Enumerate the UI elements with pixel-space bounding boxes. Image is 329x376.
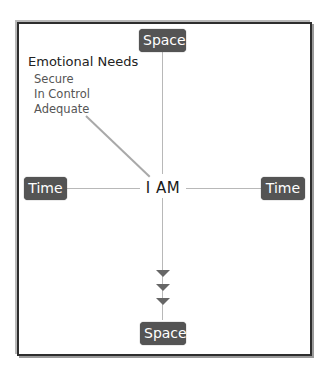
emotional-needs-list: Secure In Control Adequate [34,72,90,117]
time-right-label: Time [261,177,305,200]
emotional-need-item: Secure [34,72,90,87]
down-arrow-icon [156,284,170,291]
space-top-label: Space [139,29,186,52]
emotional-needs-title: Emotional Needs [28,54,138,70]
space-bottom-label: Space [140,322,186,345]
horizontal-axis-right-line [186,188,261,189]
time-left-label: Time [24,177,67,200]
vertical-axis-top-line [162,52,163,174]
horizontal-axis-left-line [67,188,140,189]
down-arrow-icon [156,270,170,277]
center-label: I AM [140,178,186,198]
emotional-need-item: Adequate [34,102,90,117]
emotional-need-item: In Control [34,87,90,102]
down-arrow-icon [156,298,170,305]
